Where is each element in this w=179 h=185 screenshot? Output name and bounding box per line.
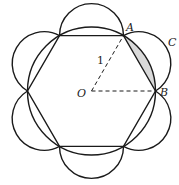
label-O: O (77, 87, 86, 100)
hexagon-semicircle-diagram: A B C O 1 (0, 0, 179, 185)
label-C: C (168, 36, 177, 49)
label-radius-1: 1 (97, 54, 104, 67)
label-B: B (159, 86, 168, 99)
label-A: A (125, 21, 134, 34)
